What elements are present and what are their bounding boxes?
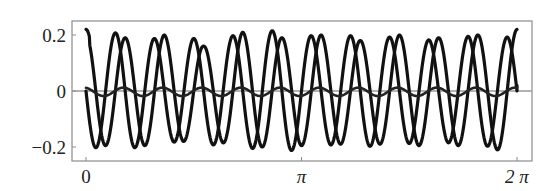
line-chart: 0π2 π 0.20−0.2 bbox=[0, 0, 558, 191]
x-tick-label: 0 bbox=[81, 166, 91, 187]
x-tick-label: π bbox=[297, 166, 307, 187]
y-axis: 0.20−0.2 bbox=[32, 25, 76, 158]
y-tick-label: 0 bbox=[57, 81, 67, 102]
y-tick-label: −0.2 bbox=[32, 137, 66, 158]
x-tick-label: 2 π bbox=[505, 166, 529, 187]
series-group bbox=[86, 29, 517, 150]
y-tick-label: 0.2 bbox=[42, 25, 66, 46]
